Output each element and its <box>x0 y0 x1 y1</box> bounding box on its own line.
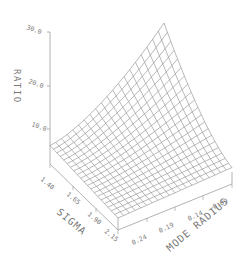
mesh-line <box>90 114 158 200</box>
z-axis: 30.0 20.0 10.0 RATIO <box>12 23 50 150</box>
mesh-line <box>96 109 164 198</box>
surface-mesh <box>50 23 232 218</box>
mesh-line <box>50 23 164 146</box>
x-tick-1-40: 1.40 <box>39 175 56 191</box>
mesh-line <box>113 90 181 190</box>
mesh-line <box>153 39 221 172</box>
z-tick-10: 10.0 <box>30 120 48 133</box>
mesh-line <box>164 23 232 168</box>
surface-plot: 30.0 20.0 10.0 RATIO 1.40 1.65 1.90 2.15… <box>0 0 248 265</box>
mesh-line <box>60 50 174 156</box>
z-axis-label: RATIO <box>12 69 22 104</box>
x-axis: 1.40 1.65 1.90 2.15 SIGMA <box>39 164 120 244</box>
mesh-line <box>101 103 169 196</box>
y-tick-0-24: 0.24 <box>130 233 148 247</box>
x-axis-label: SIGMA <box>55 206 89 237</box>
mesh-line <box>158 31 226 170</box>
z-tick-30: 30.0 <box>25 23 43 36</box>
z-tick-20: 20.0 <box>27 77 45 90</box>
y-axis-label: MODE RADIUS <box>164 195 230 253</box>
mesh-line <box>107 97 175 193</box>
y-tick-0-19: 0.19 <box>157 221 175 235</box>
